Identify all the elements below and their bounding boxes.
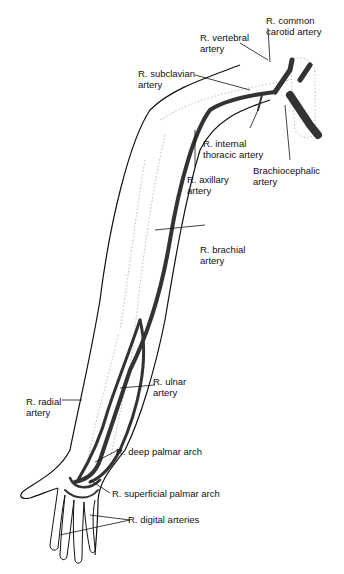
label-superficial-palmar-arch: R. superficial palmar arch bbox=[112, 488, 220, 499]
label-internal-thoracic: R. internal thoracic artery bbox=[203, 138, 263, 160]
label-axillary: R. axillary artery bbox=[187, 174, 229, 196]
label-common-carotid: R. common carotid artery bbox=[266, 15, 321, 37]
label-deep-palmar-arch: R. deep palmar arch bbox=[116, 446, 202, 457]
fingers bbox=[50, 488, 95, 563]
label-brachial: R. brachial artery bbox=[200, 244, 245, 266]
label-brachiocephalic: Brachiocephalic artery bbox=[253, 165, 320, 187]
label-radial: R. radial artery bbox=[26, 396, 61, 418]
label-vertebral: R. vertebral artery bbox=[200, 32, 249, 54]
leader-lines bbox=[60, 28, 290, 535]
label-subclavian: R. subclavian artery bbox=[138, 68, 195, 90]
label-ulnar: R. ulnar artery bbox=[153, 376, 186, 398]
label-digital-arteries: R. digital arteries bbox=[128, 514, 199, 525]
